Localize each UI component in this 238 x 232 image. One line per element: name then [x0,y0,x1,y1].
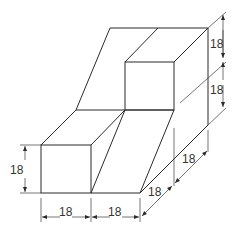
dim-depth-back: 18 [182,152,196,166]
isometric-drawing: 18 18 18 18 18 18 18 [0,0,238,232]
dim-right-upper: 18 [210,37,224,51]
dim-depth-front: 18 [148,185,162,199]
dim-right-lower: 18 [210,83,224,97]
dim-left-height: 18 [10,163,24,177]
drawing-svg: 18 18 18 18 18 18 18 [0,0,238,232]
dimension-labels: 18 18 18 18 18 18 18 [10,37,224,219]
dim-bottom-right: 18 [108,205,122,219]
dim-bottom-left: 18 [59,205,73,219]
object-edges [41,28,208,193]
dimension-lines [20,12,226,222]
